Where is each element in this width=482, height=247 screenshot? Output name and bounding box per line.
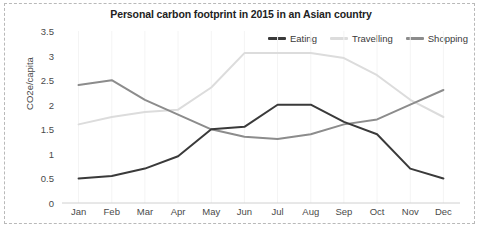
y-tick-label: 1.5 bbox=[41, 124, 54, 135]
y-tick-label: 1 bbox=[49, 148, 54, 159]
x-tick-label: Jun bbox=[237, 206, 252, 217]
y-axis-tick-labels: 00.511.522.533.5 bbox=[0, 0, 62, 247]
x-tick-label: Jul bbox=[272, 206, 284, 217]
plot-svg bbox=[62, 31, 460, 203]
y-tick-label: 0 bbox=[49, 198, 54, 209]
x-tick-label: Apr bbox=[171, 206, 186, 217]
x-tick-label: Aug bbox=[302, 206, 319, 217]
y-tick-label: 2 bbox=[49, 99, 54, 110]
x-tick-label: Dec bbox=[435, 206, 452, 217]
chart-title: Personal carbon footprint in 2015 in an … bbox=[0, 8, 482, 20]
x-tick-label: Nov bbox=[402, 206, 419, 217]
y-tick-label: 2.5 bbox=[41, 75, 54, 86]
x-axis-tick-labels: JanFebMarAprMayJunJulAugSepOctNovDec bbox=[62, 206, 460, 224]
y-tick-label: 0.5 bbox=[41, 173, 54, 184]
series-line-eating bbox=[79, 105, 444, 179]
y-tick-label: 3.5 bbox=[41, 26, 54, 37]
y-tick-label: 3 bbox=[49, 50, 54, 61]
x-tick-label: Sep bbox=[335, 206, 352, 217]
plot-area bbox=[62, 31, 460, 203]
x-tick-label: Oct bbox=[370, 206, 385, 217]
x-tick-label: Feb bbox=[104, 206, 120, 217]
x-tick-label: Mar bbox=[137, 206, 153, 217]
series-line-shopping bbox=[79, 80, 444, 139]
x-tick-label: Jan bbox=[71, 206, 86, 217]
x-tick-label: May bbox=[202, 206, 220, 217]
chart-container: Personal carbon footprint in 2015 in an … bbox=[0, 0, 482, 247]
